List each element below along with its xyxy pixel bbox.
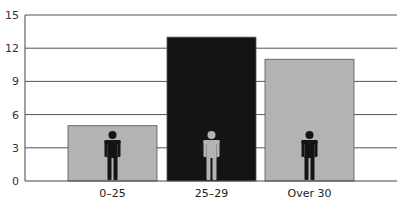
bar-0 bbox=[68, 126, 157, 181]
x-tick-label: Over 30 bbox=[288, 187, 332, 200]
y-tick-label: 12 bbox=[5, 42, 19, 55]
bar-2 bbox=[265, 59, 354, 181]
bar-rect bbox=[265, 59, 354, 181]
x-tick-label: 25–29 bbox=[195, 187, 229, 200]
bar-chart: 03691215 0–2525–29Over 30 bbox=[0, 0, 407, 206]
x-tick-label: 0–25 bbox=[99, 187, 126, 200]
bars bbox=[68, 37, 354, 181]
y-tick-label: 0 bbox=[12, 175, 19, 188]
y-tick-label: 6 bbox=[12, 109, 19, 122]
bar-rect bbox=[167, 37, 256, 181]
y-tick-label: 3 bbox=[12, 142, 19, 155]
bar-1 bbox=[167, 37, 256, 181]
x-axis-labels: 0–2525–29Over 30 bbox=[99, 187, 331, 200]
y-tick-label: 9 bbox=[12, 75, 19, 88]
y-tick-label: 15 bbox=[5, 9, 19, 22]
y-axis-ticks: 03691215 bbox=[5, 9, 19, 188]
